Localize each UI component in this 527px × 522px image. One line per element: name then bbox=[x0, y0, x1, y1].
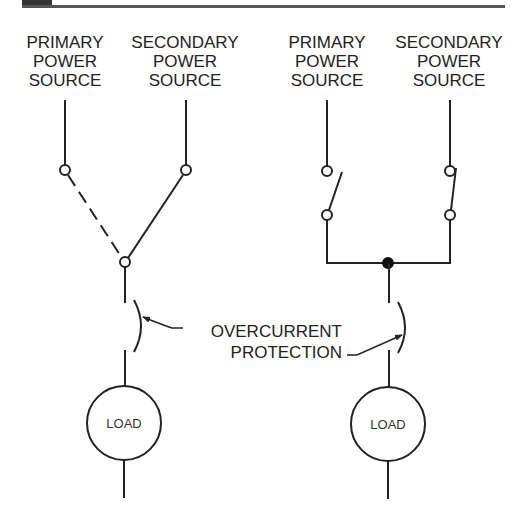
svg-text:PROTECTION: PROTECTION bbox=[231, 343, 342, 362]
svg-text:POWER: POWER bbox=[33, 52, 97, 71]
left-transfer-switch bbox=[60, 100, 191, 303]
left-secondary-source-label: SECONDARY POWER SOURCE bbox=[131, 33, 238, 90]
header-bar bbox=[22, 0, 505, 8]
right-primary-switch bbox=[322, 100, 342, 263]
arrow-to-right-breaker bbox=[347, 335, 402, 355]
svg-text:POWER: POWER bbox=[295, 52, 359, 71]
right-circuit-breaker bbox=[398, 302, 405, 353]
svg-text:POWER: POWER bbox=[153, 52, 217, 71]
svg-text:PRIMARY: PRIMARY bbox=[288, 33, 365, 52]
svg-text:OVERCURRENT: OVERCURRENT bbox=[211, 322, 342, 341]
svg-text:SECONDARY: SECONDARY bbox=[131, 33, 238, 52]
svg-text:SECONDARY: SECONDARY bbox=[395, 33, 502, 52]
overcurrent-protection-label: OVERCURRENT PROTECTION bbox=[211, 322, 342, 362]
svg-text:PRIMARY: PRIMARY bbox=[26, 33, 103, 52]
left-circuit-breaker bbox=[134, 300, 141, 352]
svg-text:SOURCE: SOURCE bbox=[291, 71, 364, 90]
left-primary-source-label: PRIMARY POWER SOURCE bbox=[26, 33, 103, 90]
arrow-to-left-breaker bbox=[143, 317, 183, 328]
right-primary-source-label: PRIMARY POWER SOURCE bbox=[288, 33, 365, 90]
right-common-bus bbox=[326, 258, 451, 303]
right-secondary-switch bbox=[445, 100, 456, 263]
right-load-label: LOAD bbox=[370, 417, 405, 432]
right-secondary-source-label: SECONDARY POWER SOURCE bbox=[395, 33, 502, 90]
svg-text:SOURCE: SOURCE bbox=[413, 71, 486, 90]
transfer-switch-diagram: PRIMARY POWER SOURCE SECONDARY POWER SOU… bbox=[0, 0, 527, 522]
svg-text:POWER: POWER bbox=[417, 52, 481, 71]
left-load-label: LOAD bbox=[106, 416, 141, 431]
svg-text:SOURCE: SOURCE bbox=[29, 71, 102, 90]
svg-text:SOURCE: SOURCE bbox=[149, 71, 222, 90]
